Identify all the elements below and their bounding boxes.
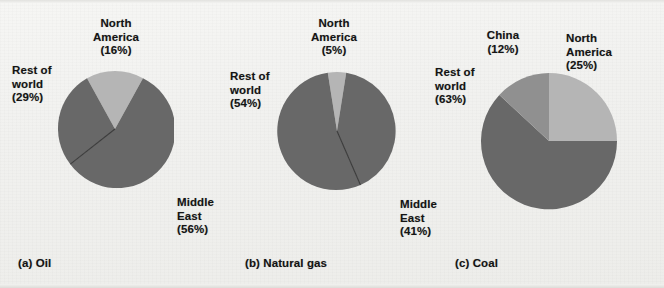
- label-rest-of-world-coal: Rest of world (63%): [435, 66, 475, 107]
- label-middle-east-oil: Middle East (56%): [177, 196, 214, 237]
- pie-chart-oil: [56, 70, 174, 188]
- label-percent: (5%): [322, 44, 347, 56]
- label-north-america-coal: North America (25%): [566, 32, 612, 73]
- label-line-1: Rest of: [435, 66, 475, 78]
- label-line-1: China: [487, 29, 519, 41]
- label-rest-of-world-natural-gas: Rest of world (54%): [230, 70, 270, 111]
- label-line-1: Middle: [177, 196, 214, 208]
- label-line-1: Middle: [400, 198, 437, 210]
- label-line-2: world: [230, 84, 261, 96]
- panel-natural-gas: North America (5%) Rest of world (54%) M…: [222, 0, 434, 288]
- label-middle-east-natural-gas: Middle East (41%): [400, 198, 437, 239]
- pie-chart-figure: North America (16%) Rest of world (29%) …: [0, 0, 664, 288]
- label-percent: (41%): [400, 225, 431, 237]
- label-line-2: America: [566, 46, 612, 58]
- label-north-america-natural-gas: North America (5%): [290, 17, 378, 58]
- label-percent: (12%): [487, 43, 518, 55]
- label-line-2: East: [400, 212, 425, 224]
- label-line-2: world: [435, 80, 466, 92]
- label-percent: (25%): [566, 59, 597, 71]
- label-north-america-oil: North America (16%): [72, 17, 160, 58]
- label-china-coal: China (12%): [470, 29, 536, 56]
- label-percent: (63%): [435, 93, 466, 105]
- label-line-2: world: [12, 78, 43, 90]
- label-percent: (56%): [177, 223, 208, 235]
- panel-oil: North America (16%) Rest of world (29%) …: [0, 0, 222, 288]
- caption-oil: (a) Oil: [18, 257, 51, 269]
- label-line-1: North: [100, 17, 131, 29]
- label-line-1: North: [318, 17, 349, 29]
- label-percent: (54%): [230, 97, 261, 109]
- panel-coal: China (12%) North America (25%) Rest of …: [434, 0, 664, 288]
- caption-natural-gas: (b) Natural gas: [245, 257, 327, 269]
- label-percent: (29%): [12, 91, 43, 103]
- pie-chart-coal: [480, 72, 618, 210]
- label-line-1: North: [566, 32, 597, 44]
- label-line-1: Rest of: [230, 70, 270, 82]
- label-line-2: America: [93, 31, 139, 43]
- label-percent: (16%): [100, 44, 131, 56]
- label-line-2: East: [177, 210, 202, 222]
- caption-coal: (c) Coal: [455, 257, 498, 269]
- pie-chart-natural-gas: [277, 71, 397, 191]
- label-line-2: America: [311, 31, 357, 43]
- slice-north-america: [549, 73, 617, 141]
- label-line-1: Rest of: [12, 64, 52, 76]
- label-rest-of-world-oil: Rest of world (29%): [12, 64, 52, 105]
